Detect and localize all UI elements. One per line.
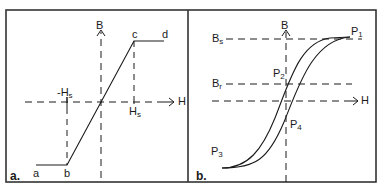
panel-b-diagram [212,30,362,182]
panel-a-point-c: c [132,29,138,40]
panel-a-point-d: d [162,29,168,40]
panel-b-p2-label: P2 [273,68,285,81]
panel-b-h-axis-label: H [361,95,369,106]
panel-b-br-label: Br [212,78,222,91]
panel-a-point-b: b [64,168,70,179]
panel-a-tag: a. [10,170,20,182]
panel-a-b-axis-label: B [96,20,103,31]
panel-b-p1-label: P1 [351,26,363,39]
panel-a-hs-label: Hs [129,106,141,119]
panel-b-bs-label: Bs [212,33,223,46]
panel-a-diagram [25,30,174,178]
panel-a-neg-hs-label: -Hs [57,87,73,100]
panel-b-tag: b. [196,170,207,182]
panel-b-b-axis-label: B [281,20,288,31]
panel-b-p4-label: P4 [290,119,302,132]
panel-b-p3-label: P3 [211,146,223,159]
panel-a-h-axis-label: H [178,96,186,107]
panel-a-point-a: a [33,168,39,179]
